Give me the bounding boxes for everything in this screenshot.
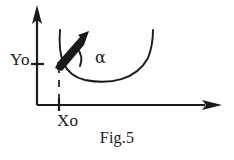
y-axis-value-label: Yo: [10, 51, 30, 68]
figure-container: Yo Xo α Fig.5: [0, 0, 234, 160]
figure-caption: Fig.5: [0, 129, 234, 147]
x-axis-value-label: Xo: [57, 112, 78, 129]
angle-label: α: [95, 50, 106, 66]
